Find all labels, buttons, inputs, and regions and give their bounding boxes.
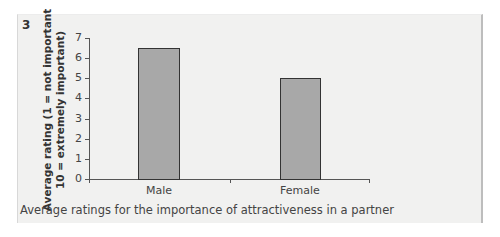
y-tick-label: 0 (68, 172, 82, 185)
y-axis-label-line-1: Average rating (1 = not important (41, 9, 54, 211)
figure-number: 3 (22, 18, 30, 32)
x-axis-tick (89, 179, 90, 183)
figure-caption: Average ratings for the importance of at… (20, 203, 394, 217)
y-axis-line (89, 38, 90, 180)
bar-male (138, 48, 180, 180)
y-tick-label: 4 (68, 91, 82, 104)
y-axis-label-line-2: 10 = extremely important) (54, 9, 67, 211)
y-tick-label: 2 (68, 132, 82, 145)
y-axis-label: Average rating (1 = not important 10 = e… (39, 30, 69, 190)
x-category-male: Male (119, 184, 199, 197)
x-category-female: Female (260, 184, 340, 197)
y-tick-label: 1 (68, 152, 82, 165)
x-axis-tick (369, 179, 370, 183)
x-axis-tick (230, 179, 231, 183)
y-tick-label: 7 (68, 31, 82, 44)
y-tick-label: 6 (68, 51, 82, 64)
y-tick-label: 5 (68, 71, 82, 84)
bar-female (280, 78, 321, 180)
y-tick-label: 3 (68, 112, 82, 125)
